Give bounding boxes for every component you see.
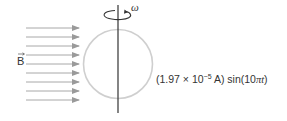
current-expression-exponent: −5 (204, 73, 212, 80)
current-expression-prefix: (1.97 × 10 (156, 73, 204, 85)
magnetic-field-label: B (17, 55, 24, 67)
current-expression-close: ) (264, 73, 268, 85)
current-expression: (1.97 × 10−5 A) sin(10πt) (156, 73, 268, 85)
diagram-figure: B ω (1.97 × 10−5 A) sin(10πt) (0, 0, 287, 121)
magnetic-field-arrows (26, 28, 79, 100)
diagram-canvas (0, 0, 287, 121)
rotation-arrow-icon (104, 10, 131, 20)
angular-velocity-label: ω (131, 1, 139, 13)
current-expression-unit: A) sin(10 (212, 73, 256, 85)
